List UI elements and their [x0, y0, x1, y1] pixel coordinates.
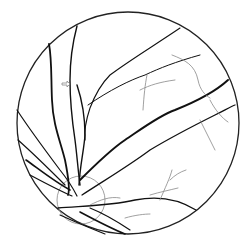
- major-vessels: [17, 26, 235, 234]
- fundus-diagram: retinal fundus vessel tracing: [0, 0, 252, 244]
- fine-vessels: [90, 55, 228, 218]
- arrow-marker-icon: [62, 81, 70, 87]
- fundus-boundary: [17, 12, 239, 234]
- fundus-svg: [0, 0, 252, 244]
